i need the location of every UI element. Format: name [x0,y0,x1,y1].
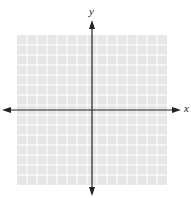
arrow-down-icon [89,187,95,196]
y-axis-label: y [89,5,94,17]
arrow-left-icon [2,107,11,113]
x-axis-label: x [184,102,189,114]
arrow-right-icon [172,107,181,113]
coordinate-plane [0,0,191,198]
arrow-up-icon [89,20,95,29]
